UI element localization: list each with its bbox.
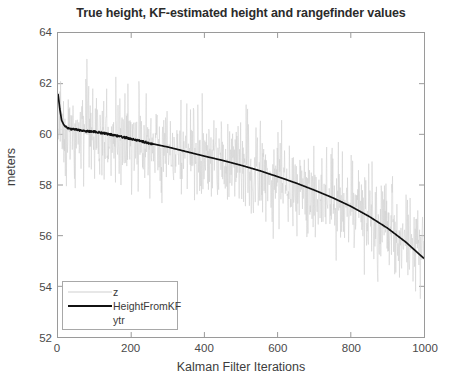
legend-label: z (113, 286, 118, 298)
legend-item-z[interactable]: z (63, 285, 177, 299)
legend-item-ytr[interactable]: ytr (63, 313, 177, 327)
x-tick-label: 1000 (412, 342, 438, 354)
x-tick-label: 0 (54, 342, 60, 354)
x-tick-label: 600 (268, 342, 287, 354)
y-tick-label: 54 (4, 281, 52, 293)
x-axis-ticks: 02004006008001000 (57, 342, 425, 360)
z-measurement-trace (58, 59, 424, 299)
y-tick-label: 52 (4, 332, 52, 344)
y-tick-label: 62 (4, 77, 52, 89)
legend-label: ytr (113, 314, 125, 326)
legend-line-sample (67, 300, 113, 312)
legend-label: HeightFromKF (113, 300, 181, 312)
legend-line-sample (67, 314, 113, 326)
x-tick-label: 800 (342, 342, 361, 354)
y-axis-label: meters (4, 132, 18, 202)
y-tick-label: 64 (4, 26, 52, 38)
legend-item-heightfromkf[interactable]: HeightFromKF (63, 299, 177, 313)
x-axis-label: Kalman Filter Iterations (57, 360, 425, 374)
chart-title: True height, KF-estimated height and ran… (57, 6, 425, 20)
legend-line-sample (67, 286, 113, 298)
series-z-measurements (58, 59, 424, 299)
y-tick-label: 56 (4, 230, 52, 242)
x-tick-label: 400 (195, 342, 214, 354)
chart-legend: zHeightFromKFytr (62, 281, 178, 330)
chart-figure: True height, KF-estimated height and ran… (0, 0, 460, 386)
x-tick-label: 200 (121, 342, 140, 354)
